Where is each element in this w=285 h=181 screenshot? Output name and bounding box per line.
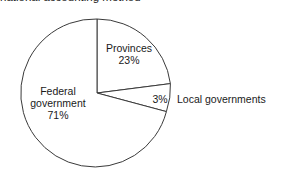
slice-label-provinces: Provinces 23% <box>99 42 159 66</box>
slice-label-local-governments-name: Local governments <box>177 93 266 105</box>
slice-label-federal-government: Federal government 71% <box>18 85 98 121</box>
slice-label-provinces-name: Provinces <box>99 42 159 54</box>
slice-label-federal-name-line1: Federal <box>18 85 98 97</box>
slice-label-federal-value: 71% <box>18 109 98 121</box>
slice-label-federal-name-line2: government <box>18 97 98 109</box>
pie-chart: national accounting method Provinces 23%… <box>0 0 285 181</box>
slice-label-local-governments-value: 3% <box>150 93 170 105</box>
slice-label-provinces-value: 23% <box>99 54 159 66</box>
